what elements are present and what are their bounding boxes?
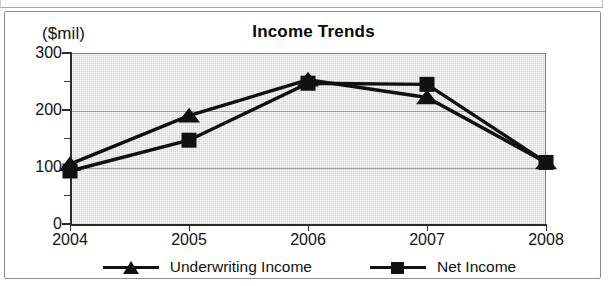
legend-item-underwriting-income[interactable]: Underwriting Income [103, 258, 312, 276]
triangle-marker-icon [103, 259, 159, 275]
chart-legend: Underwriting Income Net Income [0, 255, 609, 279]
series-plot-svg [0, 0, 609, 286]
legend-item-net-income[interactable]: Net Income [370, 258, 516, 276]
legend-label-net-income: Net Income [437, 258, 516, 276]
square-marker-icon [370, 259, 426, 275]
plot-wrapper: 300 200 100 0 2004 2005 2006 2007 2008 [0, 0, 609, 286]
legend-label-underwriting-income: Underwriting Income [170, 258, 312, 276]
